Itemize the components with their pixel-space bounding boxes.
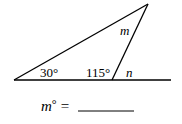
triangle-diagram: 30° 115° m n m°= [0, 0, 182, 124]
angle-label-30: 30° [40, 65, 58, 80]
equals-sign: = [61, 98, 69, 114]
angle-label-115: 115° [86, 65, 110, 80]
angle-label-m: m [120, 23, 129, 38]
answer-variable: m [41, 98, 52, 114]
angle-label-n: n [126, 65, 133, 80]
degree-symbol: ° [52, 97, 57, 111]
answer-prompt: m°= [41, 97, 69, 114]
